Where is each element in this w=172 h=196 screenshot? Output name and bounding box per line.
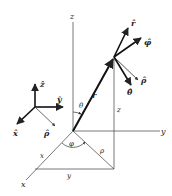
theta-arc — [73, 112, 81, 114]
y-hat-label: ŷ — [56, 94, 63, 104]
y-distance-label: y — [66, 172, 72, 180]
z-axis-label: z — [69, 12, 75, 21]
cartesian-triad — [17, 84, 63, 126]
unit-vectors-at-point — [114, 28, 141, 85]
r-label: r — [92, 90, 97, 100]
x-axis-label: x — [21, 180, 26, 189]
phi-label: φ — [69, 140, 74, 148]
r-hat-label: r̂ — [131, 18, 136, 28]
theta-label: θ — [79, 102, 84, 110]
axes — [26, 22, 160, 180]
phi-hat-label: φ̂ — [144, 37, 152, 47]
coordinate-diagram: z y x ρ z y x θ φ r r̂ φ̂ ρ̂ θ̂ ẑ ŷ x̂ ρ… — [0, 0, 172, 196]
rho-hat-label: ρ̂ — [140, 75, 147, 85]
x-axis — [26, 131, 73, 180]
rho-hat-triad-label: ρ̂ — [43, 128, 50, 138]
x-distance-label: x — [40, 152, 44, 160]
z-hat-label: ẑ — [39, 79, 45, 89]
z-height-label: z — [116, 106, 121, 114]
x-hat-label: x̂ — [12, 128, 18, 138]
y-axis-label: y — [160, 127, 166, 136]
rho-label: ρ — [99, 147, 105, 155]
theta-hat-label: θ̂ — [127, 87, 133, 97]
